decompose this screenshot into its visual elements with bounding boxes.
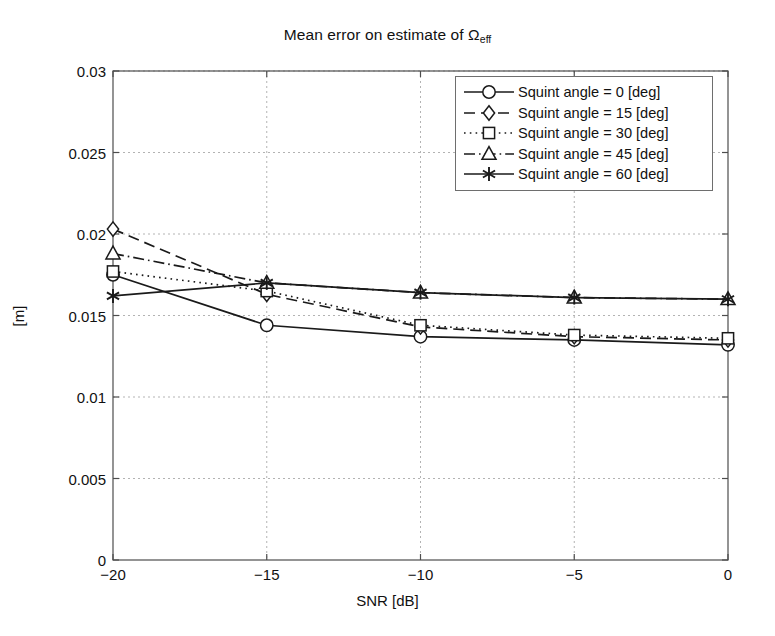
legend-line-sample [462,103,516,123]
figure-canvas: Mean error on estimate of Ωeff [m] SNR [… [0,0,775,636]
legend-line-sample [462,164,516,184]
data-point-marker [106,246,120,259]
data-point-marker [261,319,273,331]
legend-item-3[interactable]: Squint angle = 45 [deg] [462,144,704,165]
legend-sample-svg [462,103,516,123]
data-point-marker [569,329,580,340]
legend-label: Squint angle = 60 [deg] [516,166,669,182]
legend-label: Squint angle = 0 [deg] [516,84,660,100]
legend-marker-square [483,128,494,139]
legend: Squint angle = 0 [deg]Squint angle = 15 … [455,76,713,191]
legend-marker-diamond [483,106,494,120]
data-point-marker [415,320,426,331]
legend-item-1[interactable]: Squint angle = 15 [deg] [462,103,704,124]
data-point-marker [107,266,118,277]
data-point-marker [722,333,733,344]
legend-item-0[interactable]: Squint angle = 0 [deg] [462,82,704,103]
legend-line-sample [462,82,516,102]
legend-label: Squint angle = 45 [deg] [516,146,669,162]
legend-item-2[interactable]: Squint angle = 30 [deg] [462,123,704,144]
legend-item-4[interactable]: Squint angle = 60 [deg] [462,164,704,185]
legend-label: Squint angle = 15 [deg] [516,105,669,121]
legend-sample-svg [462,123,516,143]
legend-marker-circle [483,86,495,98]
legend-line-sample [462,144,516,164]
legend-sample-svg [462,144,516,164]
legend-sample-svg [462,82,516,102]
legend-marker-triangle [482,146,496,159]
legend-line-sample [462,123,516,143]
legend-label: Squint angle = 30 [deg] [516,125,669,141]
legend-sample-svg [462,164,516,184]
